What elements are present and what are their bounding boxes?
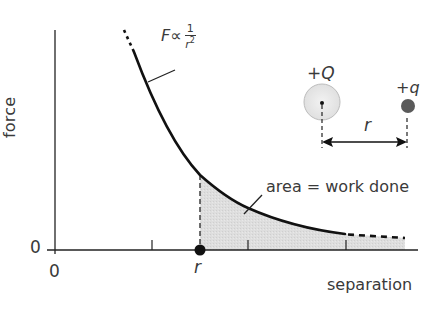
area-work-done-label: area = work done — [266, 179, 409, 195]
r-tick-label: r — [194, 259, 201, 276]
small-charge-q — [401, 99, 415, 113]
x-origin-label: 0 — [49, 263, 60, 280]
formula-denominator: r2 — [185, 36, 195, 50]
large-charge-center — [320, 101, 324, 105]
formula-exponent: 2 — [190, 36, 195, 45]
r-point-marker — [195, 245, 206, 256]
formula-numerator: 1 — [185, 23, 196, 36]
small-charge-label: +q — [396, 80, 420, 96]
y-origin-label: 0 — [30, 239, 41, 256]
inset-separation-label: r — [364, 117, 371, 134]
y-axis-label: force — [2, 97, 18, 138]
formula-leader-line — [148, 70, 175, 82]
curve-dotted-start — [124, 30, 134, 52]
formula-fraction: 1 r2 — [185, 23, 196, 50]
x-axis-label: separation — [327, 277, 412, 293]
force-separation-graph — [0, 0, 438, 316]
inverse-square-formula: F ∝ 1 r2 — [161, 23, 196, 50]
large-charge-label: +Q — [307, 65, 335, 82]
formula-proportional: ∝ — [170, 28, 181, 44]
formula-F: F — [161, 28, 170, 44]
